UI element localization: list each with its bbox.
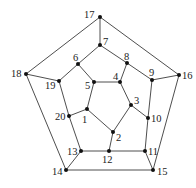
vertex-12 — [107, 149, 111, 153]
vertex-label-10: 10 — [151, 113, 162, 124]
vertex-15 — [151, 168, 155, 172]
labels-group: 1234567891011121314151617181920 — [11, 9, 193, 177]
vertex-label-9: 9 — [149, 67, 154, 78]
edge-7-8 — [100, 45, 127, 63]
vertex-19 — [57, 79, 61, 83]
vertex-14 — [64, 168, 68, 172]
vertex-label-17: 17 — [84, 9, 95, 20]
vertex-label-18: 18 — [11, 68, 22, 79]
vertex-10 — [146, 116, 150, 120]
vertex-20 — [67, 114, 71, 118]
vertex-4 — [118, 80, 122, 84]
vertex-label-16: 16 — [182, 70, 193, 81]
edge-3-2 — [113, 105, 131, 132]
vertex-label-19: 19 — [45, 80, 56, 91]
vertex-18 — [24, 72, 28, 76]
vertex-17 — [98, 15, 102, 19]
edge-17-16 — [100, 17, 179, 75]
vertex-label-3: 3 — [134, 95, 139, 106]
vertex-label-11: 11 — [148, 146, 158, 157]
vertex-label-14: 14 — [52, 166, 63, 177]
vertex-label-1: 1 — [82, 114, 87, 125]
vertex-label-8: 8 — [124, 51, 129, 62]
vertex-5 — [92, 80, 96, 84]
vertex-label-5: 5 — [85, 80, 90, 91]
vertex-2 — [111, 130, 115, 134]
edge-6-19 — [59, 64, 78, 81]
vertex-16 — [177, 73, 181, 77]
vertex-label-4: 4 — [113, 71, 119, 82]
vertex-9 — [150, 78, 154, 82]
vertex-11 — [143, 149, 147, 153]
edge-17-18 — [26, 17, 100, 74]
vertex-label-15: 15 — [157, 166, 168, 177]
vertex-label-13: 13 — [67, 146, 78, 157]
edge-8-4 — [120, 63, 127, 82]
vertex-label-20: 20 — [55, 111, 66, 122]
vertex-3 — [129, 103, 133, 107]
vertex-13 — [79, 149, 83, 153]
edge-7-6 — [78, 45, 100, 64]
vertex-label-7: 7 — [103, 36, 108, 47]
vertex-label-12: 12 — [102, 154, 113, 165]
dodecahedron-graph: 1234567891011121314151617181920 — [0, 0, 196, 188]
vertex-7 — [98, 43, 102, 47]
edge-2-12 — [109, 132, 113, 151]
edge-10-3 — [131, 105, 148, 118]
edge-16-9 — [152, 75, 179, 80]
vertex-label-6: 6 — [73, 52, 78, 63]
vertex-label-2: 2 — [116, 132, 121, 143]
edge-4-3 — [120, 82, 131, 105]
vertex-1 — [85, 107, 89, 111]
edge-1-2 — [87, 109, 113, 132]
